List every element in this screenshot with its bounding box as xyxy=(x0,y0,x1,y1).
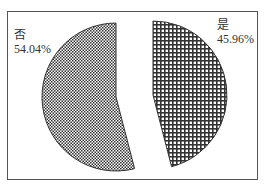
label-yes-pct: 45.96% xyxy=(217,32,254,46)
label-yes: 是 45.96% xyxy=(217,18,254,46)
pie-slice-yes xyxy=(153,21,227,167)
label-no: 否 54.04% xyxy=(14,28,51,56)
label-no-name: 否 xyxy=(14,28,51,42)
label-yes-name: 是 xyxy=(217,18,254,32)
label-no-pct: 54.04% xyxy=(14,42,51,56)
pie-slice-no xyxy=(42,23,135,171)
